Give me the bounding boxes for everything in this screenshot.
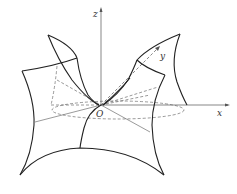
diagonal-line (101, 105, 150, 132)
left-hidden-edge (51, 66, 57, 105)
bottom-edge (20, 148, 164, 175)
x-axis-label: x (217, 109, 222, 118)
left-hidden-ray-2 (57, 80, 101, 105)
left-wing-inner-curve (48, 35, 99, 105)
right-wing-ridge (103, 60, 137, 105)
right-wing-inner (137, 60, 165, 75)
right-wing-outer (174, 34, 187, 105)
right-outer-edge (152, 75, 165, 175)
x-axis-arrow (225, 104, 230, 107)
base-ellipse (52, 101, 184, 119)
z-axis-arrow (100, 7, 103, 12)
y-axis-label: y (160, 52, 165, 61)
left-outer-edge (20, 71, 34, 175)
surface-diagram (0, 0, 237, 194)
left-wing-top-arc (22, 58, 77, 71)
origin-label: O (96, 110, 103, 119)
z-axis-label: z (93, 10, 98, 19)
